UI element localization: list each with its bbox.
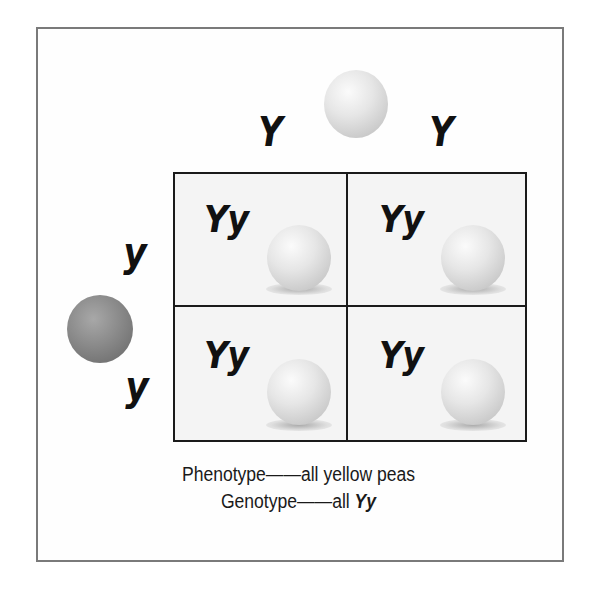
genotype-caption: Genotype——all Yy [30,490,567,513]
cell-pea-r1c1 [441,359,505,425]
cell-genotype-r1c0: Yy [204,336,248,374]
cell-pea-r1c0 [267,359,331,425]
cell-pea-r0c1 [441,225,505,291]
cell-genotype-r0c1: Yy [379,200,423,238]
side-allele-2: y [125,366,148,406]
cell-pea-r0c0 [267,225,331,291]
top-parent-yellow-pea [324,70,388,138]
grid-divider-vertical [346,172,348,442]
cell-genotype-r1c1: Yy [379,336,423,374]
side-allele-1: y [123,232,146,272]
grid-divider-horizontal [173,305,527,307]
genotype-caption-prefix: Genotype——all [221,490,355,512]
phenotype-caption: Phenotype——all yellow peas [30,463,567,486]
top-allele-1: Y [258,112,283,152]
top-allele-2: Y [429,112,454,152]
side-parent-green-pea [67,295,133,363]
genotype-caption-value: Yy [355,490,376,512]
cell-genotype-r0c0: Yy [204,200,248,238]
